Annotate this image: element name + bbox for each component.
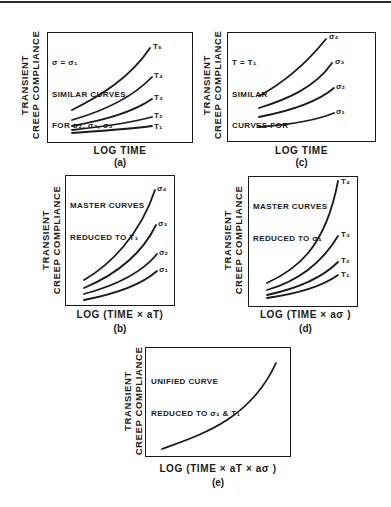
panel-e-xlabel: LOG (TIME × aT × aσ ) bbox=[140, 463, 296, 474]
panel-e-caption: (e) bbox=[140, 477, 296, 488]
panel-e-curves bbox=[0, 0, 391, 507]
unified-curve bbox=[162, 363, 276, 449]
